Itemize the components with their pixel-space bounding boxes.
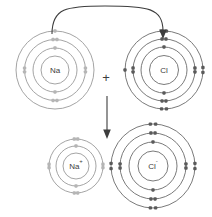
chloride-ion: Cl- [109, 122, 196, 209]
sodium-ion-electron-s2-1 [73, 137, 76, 140]
chloride-ion-electron-s2-7 [118, 166, 121, 169]
chloride-ion-electron-s2-3 [184, 162, 187, 165]
sodium-atom-electron-s2-3 [84, 66, 87, 69]
sodium-atom-electron-s2-5 [55, 99, 58, 102]
chlorine-atom-electron-s2-4 [193, 70, 196, 73]
chloride-ion-electron-s1-1 [151, 140, 154, 143]
chloride-ion-electron-s2-1 [149, 131, 152, 134]
sodium-atom-label: Na [50, 66, 61, 75]
sodium-ion-electron-s2-6 [73, 191, 76, 194]
sodium-atom-electron-s2-2 [55, 38, 58, 41]
chloride-ion-electron-s3-1 [149, 122, 152, 125]
sodium-ion: Na+ [47, 137, 104, 194]
sodium-atom: Na [16, 29, 94, 109]
chlorine-atom-electron-s2-5 [164, 99, 167, 102]
sodium-atom-electron-s3-1 [53, 29, 56, 32]
sodium-atom-electron-s2-8 [23, 66, 26, 69]
ionic-bonding-diagram: NaClNa+Cl- + [0, 0, 212, 217]
chloride-ion-charge: - [156, 157, 158, 163]
operators-layer: + [102, 70, 110, 85]
chlorine-atom-electron-s2-6 [160, 99, 163, 102]
chloride-ion-electron-s2-8 [118, 162, 121, 165]
sodium-ion-electron-s1-2 [74, 184, 77, 187]
chlorine-atom-electron-s1-2 [162, 91, 165, 94]
sodium-ion-electron-s2-3 [101, 163, 104, 166]
chlorine-atom-electron-s3-3 [201, 66, 204, 69]
chloride-ion-electron-s2-4 [184, 166, 187, 169]
sodium-ion-electron-s2-8 [47, 163, 50, 166]
chloride-ion-electron-s3-6 [149, 206, 152, 209]
chlorine-atom-electron-s2-3 [193, 66, 196, 69]
chlorine-atom: Cl [123, 29, 204, 110]
sodium-ion-electron-s1-1 [74, 144, 77, 147]
reaction-arrow [103, 96, 111, 139]
sodium-ion-electron-s2-2 [76, 137, 79, 140]
chlorine-atom-electron-s1-1 [162, 45, 165, 48]
chlorine-atom-electron-s3-6 [160, 107, 163, 110]
sodium-ion-electron-s2-7 [47, 166, 50, 169]
chloride-ion-electron-s1-2 [151, 188, 154, 191]
chlorine-atom-electron-s2-7 [131, 70, 134, 73]
chloride-ion-electron-s3-2 [154, 122, 157, 125]
sodium-ion-electron-s2-4 [101, 166, 104, 169]
electron-transfer-arrow-line [52, 6, 163, 34]
chloride-ion-electron-s3-3 [193, 162, 196, 165]
chloride-ion-electron-s3-5 [154, 206, 157, 209]
sodium-ion-electron-s2-5 [76, 191, 79, 194]
sodium-atom-electron-s2-6 [51, 99, 54, 102]
plus-operator: + [102, 70, 110, 85]
atoms-layer: NaClNa+Cl- [16, 29, 205, 209]
chlorine-atom-electron-s3-7 [123, 68, 126, 71]
chloride-ion-electron-s3-7 [109, 167, 112, 170]
sodium-atom-electron-s1-2 [53, 90, 56, 93]
chlorine-atom-electron-s2-8 [131, 66, 134, 69]
chloride-ion-electron-s2-6 [149, 197, 152, 200]
chlorine-atom-electron-s3-4 [201, 71, 204, 74]
sodium-atom-electron-s2-1 [51, 38, 54, 41]
chlorine-atom-electron-s2-2 [164, 37, 167, 40]
chlorine-atom-electron-s3-5 [165, 107, 168, 110]
sodium-atom-electron-s2-7 [23, 70, 26, 73]
chloride-ion-electron-s3-8 [109, 162, 112, 165]
diagram-canvas: NaClNa+Cl- + [0, 0, 212, 217]
chlorine-atom-label: Cl [160, 66, 168, 75]
chloride-ion-electron-s2-2 [153, 131, 156, 134]
reaction-arrow-head-icon [103, 130, 111, 140]
chloride-ion-electron-s2-5 [153, 197, 156, 200]
sodium-ion-charge: + [79, 157, 83, 163]
chloride-ion-electron-s3-4 [193, 167, 196, 170]
sodium-atom-electron-s2-4 [84, 70, 87, 73]
sodium-atom-electron-s1-1 [53, 46, 56, 49]
